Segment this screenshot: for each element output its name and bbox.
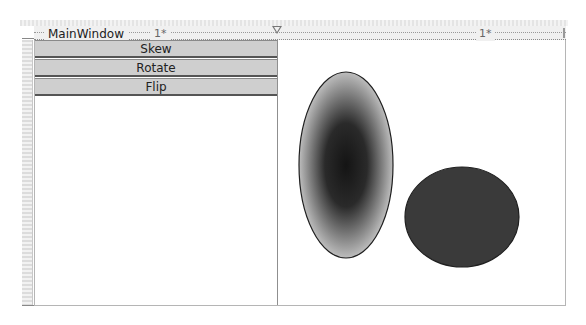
rotate-button[interactable]: Rotate bbox=[35, 59, 277, 77]
column-1-size-label[interactable]: 1* bbox=[151, 27, 170, 41]
button-stack-panel: Skew Rotate Flip bbox=[35, 40, 277, 96]
column-2-size-label[interactable]: 1* bbox=[476, 27, 495, 41]
window-bottom-border bbox=[34, 305, 566, 306]
gradient-ellipse[interactable] bbox=[299, 72, 393, 258]
flip-button[interactable]: Flip bbox=[35, 78, 277, 96]
right-edge-marker bbox=[563, 28, 565, 38]
window-title: MainWindow bbox=[44, 27, 128, 41]
ruler-marker bbox=[22, 305, 34, 306]
skew-button[interactable]: Skew bbox=[35, 40, 277, 58]
ruler-marker bbox=[22, 38, 34, 39]
shapes-canvas bbox=[278, 40, 565, 305]
column-splitter-handle-inner bbox=[274, 27, 280, 32]
left-ruler bbox=[22, 40, 33, 306]
solid-ellipse[interactable] bbox=[405, 167, 519, 267]
